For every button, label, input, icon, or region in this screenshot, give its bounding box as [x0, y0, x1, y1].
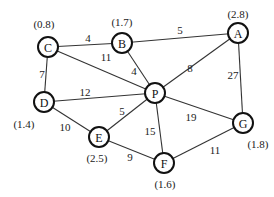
edge-weight-p-g: 19 — [186, 111, 198, 123]
node-heuristic: (1.4) — [13, 118, 34, 131]
node-label: A — [234, 27, 243, 41]
node-c: C(0.8) — [33, 18, 58, 57]
edge-p-g — [155, 93, 243, 123]
node-heuristic: (1.6) — [154, 178, 175, 191]
node-label: G — [239, 117, 248, 131]
node-label: E — [95, 131, 102, 145]
node-heuristic: (1.8) — [247, 138, 268, 151]
node-label: P — [152, 87, 159, 101]
node-f: F(1.6) — [154, 153, 176, 191]
node-heuristic: (0.8) — [33, 18, 54, 31]
edge-f-g — [164, 123, 243, 163]
node-label: D — [40, 96, 49, 110]
weights-layer: 451148277121051519911 — [39, 24, 239, 163]
nodes-layer: A(2.8)B(1.7)C(0.8)D(1.4)E(2.5)F(1.6)G(1.… — [13, 8, 268, 191]
node-e: E(2.5) — [86, 127, 109, 165]
edge-weight-c-d: 7 — [39, 68, 45, 80]
edge-weight-p-f: 15 — [145, 125, 157, 137]
edge-weight-a-g: 27 — [228, 69, 240, 81]
edge-a-p — [155, 33, 238, 93]
edge-weight-d-e: 10 — [60, 121, 72, 133]
edge-weight-e-p: 5 — [119, 105, 125, 117]
node-b: B(1.7) — [111, 16, 132, 53]
edge-weight-a-p: 8 — [187, 62, 193, 74]
node-a: A(2.8) — [227, 8, 248, 43]
node-heuristic: (1.7) — [111, 16, 132, 29]
edge-weight-c-b: 4 — [85, 32, 91, 44]
edge-a-g — [238, 33, 243, 123]
node-label: B — [118, 37, 126, 51]
node-p: P — [145, 83, 165, 103]
node-label: C — [44, 41, 52, 55]
node-d: D(1.4) — [13, 92, 54, 131]
node-heuristic: (2.8) — [227, 8, 248, 21]
edge-weight-b-p: 4 — [131, 65, 137, 77]
edge-weight-e-f: 9 — [127, 151, 133, 163]
edge-weight-f-g: 11 — [210, 144, 221, 156]
node-g: G(1.8) — [233, 113, 269, 151]
edge-weight-b-a: 5 — [177, 24, 183, 36]
edge-weight-c-p: 11 — [101, 51, 112, 63]
edge-d-p — [44, 93, 155, 102]
node-label: F — [161, 157, 168, 171]
node-heuristic: (2.5) — [86, 152, 107, 165]
graph-diagram: 451148277121051519911 A(2.8)B(1.7)C(0.8)… — [0, 0, 274, 197]
edge-weight-d-p: 12 — [80, 86, 91, 98]
